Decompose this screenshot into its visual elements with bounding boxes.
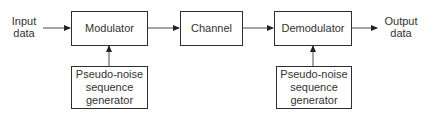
pn-rx-line1: Pseudo-noise: [280, 68, 347, 81]
demodulator-label: Demodulator: [282, 22, 345, 35]
modulator-label: Modulator: [85, 22, 134, 35]
input-data-label: Input data: [8, 15, 40, 39]
input-label-line2: data: [8, 27, 40, 39]
modulator-block: Modulator: [71, 11, 148, 46]
output-data-label: Output data: [380, 15, 422, 39]
pn-generator-tx-block: Pseudo-noise sequence generator: [71, 66, 148, 109]
pn-rx-line2: sequence: [290, 81, 338, 94]
pn-tx-line3: generator: [86, 94, 133, 107]
pn-rx-line3: generator: [290, 94, 337, 107]
demodulator-block: Demodulator: [274, 11, 352, 46]
channel-label: Channel: [191, 22, 232, 35]
pn-tx-line1: Pseudo-noise: [76, 68, 143, 81]
output-label-line1: Output: [380, 15, 422, 27]
output-label-line2: data: [380, 27, 422, 39]
pn-tx-line2: sequence: [86, 81, 134, 94]
input-label-line1: Input: [8, 15, 40, 27]
channel-block: Channel: [180, 11, 243, 46]
pn-generator-rx-block: Pseudo-noise sequence generator: [276, 66, 352, 109]
